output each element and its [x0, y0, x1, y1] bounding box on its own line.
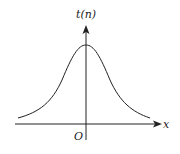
x-axis-label: x: [163, 118, 170, 131]
origin-label: O: [74, 130, 83, 143]
bell-curve-diagram: t(n) x O: [0, 0, 180, 154]
y-axis-label: t(n): [76, 8, 96, 21]
bell-curve: [18, 45, 150, 118]
